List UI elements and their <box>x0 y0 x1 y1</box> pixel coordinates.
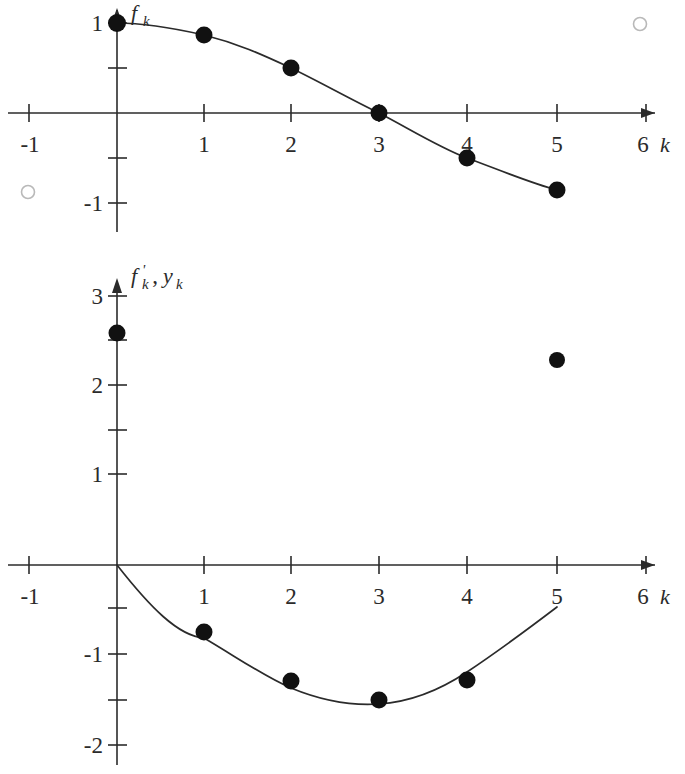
data-point <box>459 672 476 689</box>
x-axis-label-top: k <box>660 132 671 157</box>
y-axis-label-top-main: f <box>131 0 140 25</box>
data-point <box>196 624 213 641</box>
curve-top <box>117 23 557 190</box>
data-point <box>283 60 300 77</box>
data-point <box>459 150 476 167</box>
ytick-label-bottom-neg2: -2 <box>84 733 103 758</box>
y-axis-label-bottom-ysub: k <box>176 276 183 292</box>
ytick-label-top-1: 1 <box>92 11 104 36</box>
data-point <box>549 182 566 199</box>
data-point <box>371 105 388 122</box>
y-axis-label-bottom: f ' k , y k <box>131 262 183 292</box>
open-data-point <box>634 18 647 31</box>
data-markers-top <box>108 14 566 199</box>
xtick-label-bottom-3: 3 <box>373 584 385 609</box>
ytick-label-bottom-1: 1 <box>92 462 104 487</box>
open-data-point <box>22 186 35 199</box>
xtick-label-top-1: 1 <box>198 132 210 157</box>
xtick-label-top-5: 5 <box>551 132 563 157</box>
ytick-label-bottom-neg1: -1 <box>84 642 103 667</box>
xtick-label-bottom-1: 1 <box>198 584 210 609</box>
xtick-label-bottom-5: 5 <box>551 584 563 609</box>
data-point <box>196 27 213 44</box>
chart-top-panel: -1 1 2 3 4 5 6 1 -1 k f k <box>0 0 685 240</box>
data-point <box>108 14 126 32</box>
y-axis-bottom <box>112 278 122 765</box>
y-axis-label-bottom-y: y <box>161 263 173 288</box>
x-axis-label-bottom: k <box>660 584 671 609</box>
y-axis-label-bottom-comma: , <box>152 263 158 288</box>
xtick-label-bottom-6: 6 <box>637 584 649 609</box>
xtick-label-bottom-4: 4 <box>461 584 473 609</box>
curve-bottom <box>117 565 557 704</box>
y-axis-label-bottom-fsub: k <box>142 276 149 292</box>
ytick-label-top-neg1: -1 <box>84 191 103 216</box>
open-markers-top <box>22 18 647 199</box>
data-point <box>371 692 388 709</box>
xtick-label-top-0: -1 <box>20 132 39 157</box>
data-point <box>549 352 565 368</box>
chart-bottom-svg: -1 1 2 3 4 5 6 3 2 1 -1 -2 k f ' k , y k <box>0 240 685 774</box>
xtick-label-bottom-2: 2 <box>285 584 297 609</box>
xtick-label-bottom-0: -1 <box>20 584 39 609</box>
xtick-label-top-2: 2 <box>285 132 297 157</box>
y-axis-top <box>112 8 122 232</box>
chart-top-svg: -1 1 2 3 4 5 6 1 -1 k f k <box>0 0 685 240</box>
data-point <box>109 325 126 342</box>
data-point <box>283 673 300 690</box>
x-axis-top <box>8 108 655 118</box>
ytick-label-bottom-3: 3 <box>92 284 104 309</box>
chart-bottom-panel: -1 1 2 3 4 5 6 3 2 1 -1 -2 k f ' k , y k <box>0 240 685 774</box>
y-axis-label-top-sub: k <box>143 13 150 29</box>
figure-container: -1 1 2 3 4 5 6 1 -1 k f k <box>0 0 685 774</box>
ytick-label-bottom-2: 2 <box>92 373 104 398</box>
x-axis-bottom <box>8 560 655 570</box>
xtick-label-top-3: 3 <box>373 132 385 157</box>
xtick-label-top-6: 6 <box>637 132 649 157</box>
y-axis-label-bottom-f: f <box>131 263 140 288</box>
